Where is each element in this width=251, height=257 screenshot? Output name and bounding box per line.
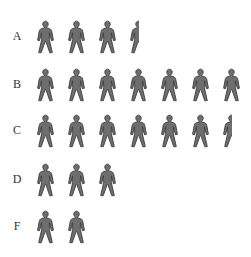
category-label: D (11, 172, 23, 187)
category-label: B (11, 77, 23, 92)
pictograph-row-d: D (0, 163, 251, 197)
person-icon (36, 163, 55, 197)
person-icon (129, 20, 139, 54)
person-icon (67, 114, 86, 148)
person-icon (191, 68, 210, 102)
person-icon (98, 68, 117, 102)
person-icon (67, 163, 86, 197)
person-icon (67, 210, 86, 244)
person-icon (191, 114, 210, 148)
person-icon (36, 20, 55, 54)
person-icon (36, 210, 55, 244)
person-icon (98, 20, 117, 54)
person-icon (160, 68, 179, 102)
person-icon (36, 68, 55, 102)
person-icon (222, 114, 232, 148)
person-icon (36, 114, 55, 148)
person-icon (129, 68, 148, 102)
pictograph-row-f: F (0, 210, 251, 244)
pictograph-row-b: B (0, 68, 251, 102)
person-icon (129, 114, 148, 148)
person-icon (67, 68, 86, 102)
person-icon (98, 163, 117, 197)
pictograph-row-c: C (0, 114, 251, 148)
person-icon (67, 20, 86, 54)
person-icon (222, 68, 241, 102)
pictograph-row-a: A (0, 20, 251, 54)
person-icon (160, 114, 179, 148)
person-icon (98, 114, 117, 148)
category-label: A (11, 29, 23, 44)
category-label: C (11, 123, 23, 138)
category-label: F (11, 219, 23, 234)
